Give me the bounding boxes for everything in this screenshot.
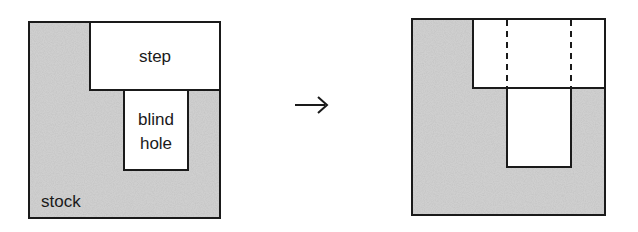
blind-hole-label-line2: hole xyxy=(140,134,172,153)
after-diagram xyxy=(412,19,605,215)
step-feature xyxy=(473,19,605,88)
stock-label: stock xyxy=(41,192,81,211)
blind-hole-feature xyxy=(124,90,188,170)
before-diagram: step blind hole stock xyxy=(29,22,220,218)
through-hole-feature xyxy=(507,88,571,167)
step-label: step xyxy=(139,47,171,66)
transform-arrow-icon xyxy=(295,97,327,113)
blind-hole-label-line1: blind xyxy=(138,110,174,129)
diagram-canvas: step blind hole stock xyxy=(0,0,638,232)
